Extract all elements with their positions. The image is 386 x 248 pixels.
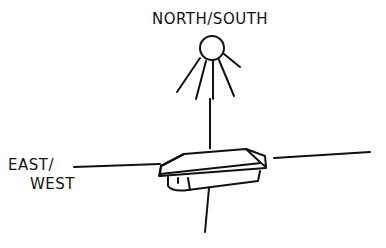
diagram-canvas: NORTH/SOUTH EAST/ WEST [0,0,386,248]
east-west-axis-left [74,164,160,167]
east-west-axis-right [274,152,370,158]
device-icon [159,149,266,191]
sun-ray [196,61,206,99]
sun-ray [177,58,200,92]
diagram-drawing [0,0,386,248]
sun-disc [200,36,224,60]
sun-ray [224,54,240,67]
sun-icon [177,36,240,99]
north-south-label: NORTH/SOUTH [152,10,268,28]
east-west-label-line-1: EAST/ [8,156,54,174]
north-south-axis-lower [205,188,209,232]
sun-ray [219,60,234,96]
east-west-label-line-2: WEST [30,175,75,193]
device-base-divider [188,178,190,190]
